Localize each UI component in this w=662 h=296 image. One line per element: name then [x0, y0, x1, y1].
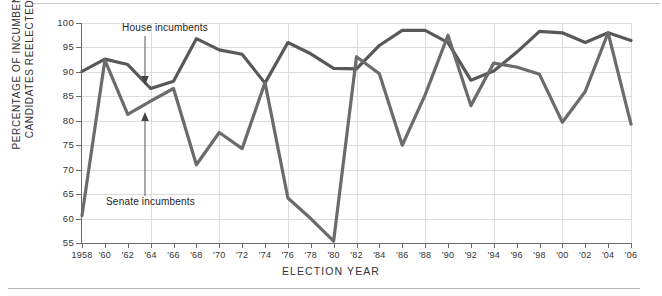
chart-figure: 100959085807570656055 1958'60'62'64'66'6…: [0, 0, 662, 296]
senate-incumbents-annotation: Senate incumbents: [106, 196, 195, 207]
annotation-arrows: [0, 0, 662, 296]
house-incumbents-annotation: House incumbents: [122, 22, 208, 33]
house-arrow-head: [141, 76, 149, 85]
senate-arrow-head: [141, 112, 149, 121]
